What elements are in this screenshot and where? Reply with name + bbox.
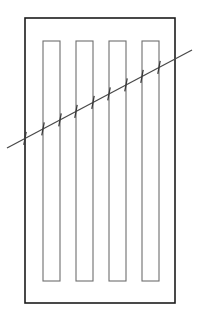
- diagonal-section-line: [7, 50, 192, 148]
- slat-rect-3: [109, 41, 126, 281]
- slat-rect-1: [43, 41, 60, 281]
- outer-frame-rect: [25, 18, 175, 303]
- slat-rect-2: [76, 41, 93, 281]
- line-drawing-canvas: [0, 0, 199, 321]
- slat-rect-4: [142, 41, 159, 281]
- figure-root: [0, 0, 199, 321]
